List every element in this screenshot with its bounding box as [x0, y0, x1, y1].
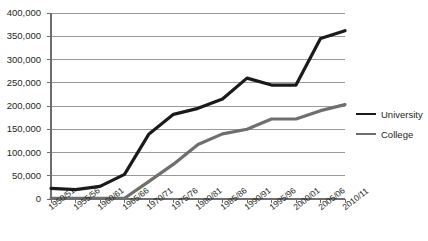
- legend-label: University: [381, 109, 423, 120]
- y-axis-tick-label: 50,000: [0, 171, 46, 181]
- y-axis-tick-label: 400,000: [0, 8, 46, 18]
- line-chart: 400,000350,000300,000250,000200,000150,0…: [0, 0, 428, 241]
- y-axis-tick-label: 350,000: [0, 31, 46, 41]
- plot-area: [51, 13, 345, 199]
- plot-svg: [51, 13, 345, 199]
- legend-swatch-icon: [356, 133, 376, 136]
- legend-item-university[interactable]: University: [356, 104, 428, 124]
- legend-label: College: [381, 129, 413, 140]
- legend-item-college[interactable]: College: [356, 124, 428, 144]
- y-axis-tick-label: 150,000: [0, 124, 46, 134]
- y-axis-tick-label: 250,000: [0, 78, 46, 88]
- series-line-university: [51, 31, 345, 190]
- legend-swatch-icon: [356, 113, 376, 116]
- x-axis: 1950/511955/561960/611965/661970/711975/…: [0, 199, 428, 241]
- y-axis-tick-label: 200,000: [0, 101, 46, 111]
- y-axis-tick-label: 300,000: [0, 55, 46, 65]
- y-axis-tick-label: 100,000: [0, 148, 46, 158]
- chart-legend: UniversityCollege: [356, 104, 428, 144]
